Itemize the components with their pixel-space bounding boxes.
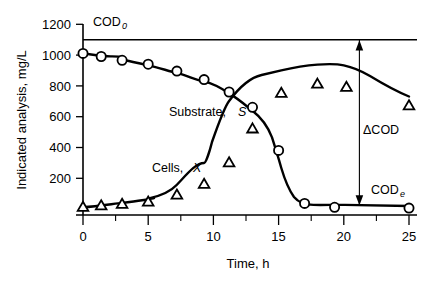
code-label: COD e <box>371 183 405 199</box>
y-tick-label-1200: 1200 <box>42 17 71 32</box>
y-tick-label-200: 200 <box>49 171 71 186</box>
y-tick-label-600: 600 <box>49 109 71 124</box>
substrate-label-symbol: S <box>238 105 247 119</box>
x-axis-title: Time, h <box>227 256 270 271</box>
delta-cod-label: ΔCOD <box>363 123 399 137</box>
x-tick-label-15: 15 <box>271 229 285 244</box>
chart-figure: 1200 1000 800 600 400 200 0 5 10 15 20 2… <box>0 0 433 281</box>
code-label-text: COD <box>371 183 399 197</box>
cells-curve <box>83 64 409 207</box>
y-tick-label-800: 800 <box>49 79 71 94</box>
x-tick-label-20: 20 <box>337 229 351 244</box>
cells-markers <box>78 79 415 211</box>
cod0-label-text: COD <box>93 15 121 29</box>
substrate-label: Substrate, S <box>169 105 247 119</box>
chart-svg: 1200 1000 800 600 400 200 0 5 10 15 20 2… <box>0 0 433 281</box>
x-tick-label-10: 10 <box>206 229 220 244</box>
cod0-label: COD 0 <box>93 15 127 31</box>
x-axis-ticks <box>83 215 409 225</box>
cod0-label-subscript: 0 <box>122 21 127 31</box>
cells-label-symbol: X <box>192 161 202 175</box>
x-tick-label-5: 5 <box>145 229 152 244</box>
cells-label-text: Cells, <box>152 161 183 175</box>
y-axis-title: Indicated analysis, mg/L <box>14 50 29 189</box>
substrate-curve <box>83 53 409 206</box>
x-tick-label-0: 0 <box>79 229 86 244</box>
y-tick-label-1000: 1000 <box>42 48 71 63</box>
x-tick-label-25: 25 <box>402 229 416 244</box>
substrate-label-text: Substrate, <box>169 105 226 119</box>
code-label-subscript: e <box>400 189 405 199</box>
y-tick-label-400: 400 <box>49 140 71 155</box>
y-axis-ticks <box>76 24 83 178</box>
cells-label: Cells, X <box>152 161 202 175</box>
